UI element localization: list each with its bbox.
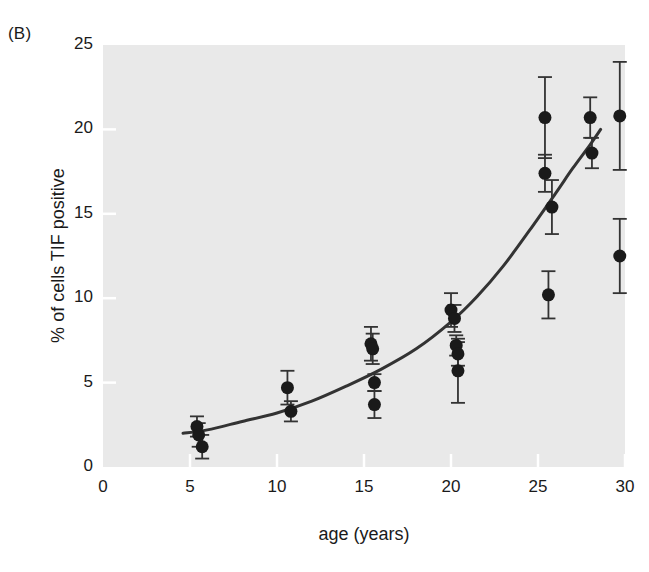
data-point [613, 109, 626, 122]
data-point [613, 250, 626, 263]
y-axis-title: % of cells TIF positive [48, 141, 69, 371]
x-tick-label: 15 [339, 477, 389, 497]
x-tick-label: 0 [78, 477, 128, 497]
data-point [368, 376, 381, 389]
data-point [192, 428, 205, 441]
y-tick-label: 0 [51, 456, 93, 476]
x-tick-label: 20 [426, 477, 476, 497]
x-tick-label: 10 [252, 477, 302, 497]
y-tick-label: 5 [51, 372, 93, 392]
data-point [448, 312, 461, 325]
x-tick-label: 30 [600, 477, 649, 497]
data-point [538, 111, 551, 124]
y-tick-label: 25 [51, 34, 93, 54]
x-tick-label: 5 [165, 477, 215, 497]
y-tick-label: 20 [51, 118, 93, 138]
data-point [368, 398, 381, 411]
data-point [542, 288, 555, 301]
data-point [538, 167, 551, 180]
data-point [545, 201, 558, 214]
data-point [196, 440, 209, 453]
data-point [366, 342, 379, 355]
data-point [284, 405, 297, 418]
x-tick-label: 25 [513, 477, 563, 497]
figure-panel-b: (B) 0510152025 051015202530 age (years) … [0, 0, 649, 572]
x-axis-title: age (years) [103, 524, 625, 545]
data-point [584, 111, 597, 124]
data-point [585, 147, 598, 160]
data-point [281, 381, 294, 394]
plot-background [103, 45, 625, 467]
panel-label: (B) [8, 24, 31, 44]
data-point [451, 347, 464, 360]
data-point [451, 364, 464, 377]
